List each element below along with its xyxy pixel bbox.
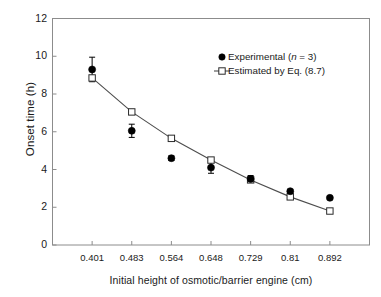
chart-figure: 024681012 0.4010.4830.5640.6480.7290.810… [0,0,381,297]
legend-entry-experimental: Experimental (n = 3) [228,50,325,64]
legend-label-estimated: Estimated by Eq. (8.7) [228,65,325,76]
legend-entry-estimated: Estimated by Eq. (8.7) [228,64,325,78]
x-tick-label-layer: 0.4010.4830.5640.6480.7290.810.892 [0,0,381,297]
legend-label-experimental-prefix: Experimental ( [228,51,291,62]
x-axis-title: Initial height of osmotic/barrier engine… [52,274,370,286]
legend-label-experimental-suffix: = 3) [297,51,317,62]
x-tick-label: 0.892 [307,252,353,263]
y-axis-title: Onset time (h) [24,29,36,209]
chart-legend: Experimental (n = 3) Estimated by Eq. (8… [228,50,325,78]
